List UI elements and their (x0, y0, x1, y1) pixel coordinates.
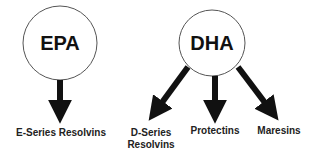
e-series-resolvins-label: E-Series Resolvins (16, 127, 106, 138)
epa-label: EPA (40, 32, 80, 54)
epa-node: EPA (23, 6, 97, 80)
resolvins-label: Resolvins (127, 139, 175, 150)
arrows (60, 67, 272, 113)
d-series-label: D-Series (131, 127, 172, 138)
lipid-mediator-diagram: EPA DHA E-Series Resolvins D-Series Reso… (0, 0, 316, 155)
arrow-down-right-icon (238, 67, 272, 112)
arrow-down-left-icon (155, 67, 188, 112)
protectins-label: Protectins (191, 125, 240, 136)
maresins-label: Maresins (257, 125, 301, 136)
dha-label: DHA (190, 32, 233, 54)
dha-node: DHA (179, 10, 245, 76)
